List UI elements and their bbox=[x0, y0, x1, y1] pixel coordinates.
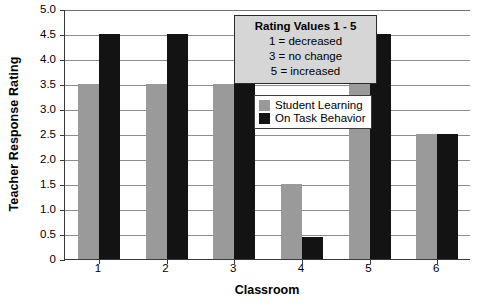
legend-item: Student Learning bbox=[259, 100, 366, 112]
x-axis-tick-label: 6 bbox=[433, 262, 439, 274]
legend-label: On Task Behavior bbox=[275, 113, 366, 125]
bar-chart: Teacher Response Rating 5.04.54.03.53.02… bbox=[0, 0, 485, 306]
y-axis-tick-label: 4.0 bbox=[40, 54, 56, 66]
x-axis-tick-label: 5 bbox=[365, 262, 371, 274]
rating-values-line: 1 = decreased bbox=[241, 34, 370, 49]
legend-swatch bbox=[259, 100, 270, 111]
y-axis-tick-label: 0 bbox=[50, 254, 56, 266]
y-axis-title-text: Teacher Response Rating bbox=[7, 57, 21, 212]
rating-values-lines: 1 = decreased3 = no change5 = increased bbox=[241, 34, 370, 79]
legend-item: On Task Behavior bbox=[259, 113, 366, 125]
bar bbox=[416, 134, 437, 259]
y-axis-tick-label: 3.5 bbox=[40, 79, 56, 91]
y-axis-tick-label: 3.0 bbox=[40, 104, 56, 116]
x-axis-title: Classroom bbox=[64, 283, 470, 297]
y-axis-tick-label: 1.5 bbox=[40, 179, 56, 191]
rating-values-line: 3 = no change bbox=[241, 49, 370, 64]
y-axis-tick-label: 0.5 bbox=[40, 229, 56, 241]
chart-legend: Student LearningOn Task Behavior bbox=[254, 95, 372, 129]
y-axis-tick-labels: 5.04.54.03.53.02.52.01.51.00.50 bbox=[28, 10, 60, 260]
y-axis-tick-label: 5.0 bbox=[40, 4, 56, 16]
bar bbox=[281, 184, 302, 259]
x-axis-tick-label: 2 bbox=[162, 262, 168, 274]
x-axis-tick-label: 3 bbox=[230, 262, 236, 274]
x-axis-tick-labels: 123456 bbox=[64, 262, 470, 280]
y-axis-tick-label: 4.5 bbox=[40, 29, 56, 41]
bar bbox=[167, 34, 188, 259]
bar bbox=[437, 134, 458, 259]
rating-values-line: 5 = increased bbox=[241, 64, 370, 79]
x-axis-tick-label: 4 bbox=[298, 262, 304, 274]
rating-values-box: Rating Values 1 - 5 1 = decreased3 = no … bbox=[234, 15, 377, 84]
bar-group bbox=[146, 10, 188, 259]
legend-label: Student Learning bbox=[275, 100, 363, 112]
legend-swatch bbox=[259, 113, 270, 124]
bar bbox=[78, 84, 99, 259]
x-axis-tick-label: 1 bbox=[95, 262, 101, 274]
y-axis-tick-label: 2.0 bbox=[40, 154, 56, 166]
rating-values-title: Rating Values 1 - 5 bbox=[241, 19, 370, 33]
bar bbox=[213, 84, 234, 259]
bar-group bbox=[78, 10, 120, 259]
bar bbox=[302, 237, 323, 260]
y-axis-tick-label: 1.0 bbox=[40, 204, 56, 216]
bar bbox=[99, 34, 120, 259]
y-axis-tick-label: 2.5 bbox=[40, 129, 56, 141]
y-axis-title: Teacher Response Rating bbox=[0, 0, 28, 268]
y-axis-tick bbox=[60, 260, 65, 261]
bar bbox=[146, 84, 167, 259]
bar-group bbox=[416, 10, 458, 259]
